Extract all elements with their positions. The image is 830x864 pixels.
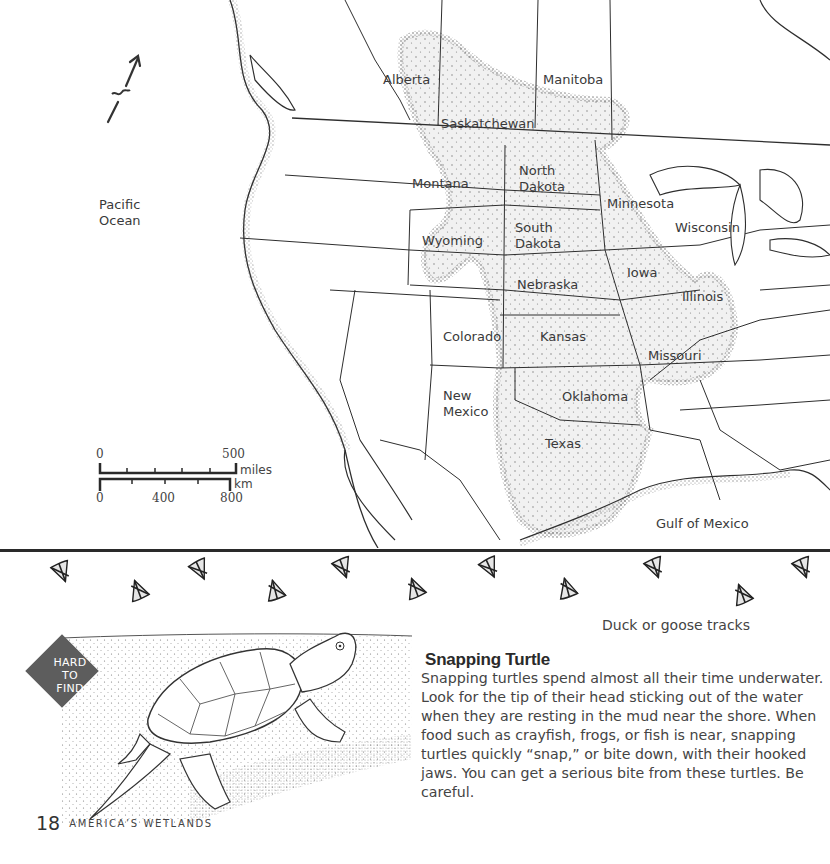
map-label-nebraska: Nebraska	[517, 277, 578, 293]
map-label-saskatchewan: Saskatchewan	[441, 116, 535, 132]
map-label-south-dakota: South Dakota	[515, 220, 561, 252]
map-label-wisconsin: Wisconsin	[675, 220, 740, 236]
section-divider	[0, 549, 830, 552]
scale-km-start: 0	[96, 491, 104, 505]
scale-bar: 0 500 miles km 0 400 800	[92, 447, 282, 507]
duck-track-icon	[328, 553, 359, 584]
map-label-alberta: Alberta	[383, 72, 430, 88]
map-label-new-mexico: New Mexico	[443, 388, 488, 420]
scale-miles-start: 0	[96, 447, 104, 461]
map-label-minnesota: Minnesota	[607, 196, 674, 212]
map-label-oklahoma: Oklahoma	[562, 389, 628, 405]
map-label-gulf-of-mexico: Gulf of Mexico	[656, 516, 749, 532]
duck-track-icon	[788, 553, 819, 584]
snapping-turtle-illustration	[40, 624, 420, 824]
north-arrow-icon	[96, 50, 156, 130]
duck-track-icon	[260, 575, 289, 604]
duck-track-icon	[727, 579, 758, 610]
map-label-pacific-ocean: Pacific Ocean	[99, 197, 141, 229]
map-label-texas: Texas	[545, 436, 581, 452]
scale-km-end: 800	[220, 491, 243, 505]
duck-track-icon	[640, 553, 671, 584]
species-description: Snapping turtles spend almost all their …	[421, 669, 826, 802]
range-map: Pacific Ocean Gulf of Mexico Alberta Man…	[0, 0, 830, 548]
map-label-north-dakota: North Dakota	[519, 163, 565, 195]
duck-track-icon	[552, 573, 581, 602]
map-label-missouri: Missouri	[648, 348, 702, 364]
map-label-manitoba: Manitoba	[543, 72, 603, 88]
scale-miles-end: 500	[222, 447, 245, 461]
tracks-caption: Duck or goose tracks	[602, 617, 750, 633]
map-label-illinois: Illinois	[682, 289, 723, 305]
duck-track-icon	[400, 573, 431, 604]
duck-track-icon	[474, 552, 506, 584]
map-label-kansas: Kansas	[540, 329, 586, 345]
hard-to-find-label: HARD TO FIND	[33, 656, 107, 695]
duck-track-icon	[123, 575, 154, 606]
map-label-iowa: Iowa	[627, 265, 657, 281]
duck-track-icon	[47, 557, 78, 588]
page-footer: 18 AMERICA’S WETLANDS	[36, 812, 213, 834]
scale-km-unit: km	[234, 477, 253, 491]
duck-tracks-row	[0, 560, 830, 620]
map-label-montana: Montana	[412, 176, 469, 192]
species-title: Snapping Turtle	[425, 650, 550, 670]
page-number: 18	[36, 812, 60, 834]
running-title: AMERICA’S WETLANDS	[69, 818, 213, 829]
scale-km-mid: 400	[152, 491, 175, 505]
duck-track-icon	[184, 554, 216, 586]
map-label-colorado: Colorado	[443, 329, 501, 345]
map-label-wyoming: Wyoming	[422, 233, 483, 249]
